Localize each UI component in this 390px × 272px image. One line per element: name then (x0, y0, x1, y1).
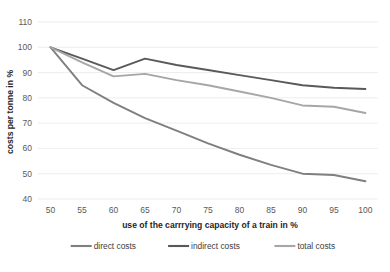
y-tick-label: 40 (23, 194, 33, 204)
series-line-total-costs (51, 47, 366, 113)
y-tick-label: 100 (18, 42, 32, 52)
x-tick-label: 50 (46, 205, 56, 215)
chart-canvas: 405060708090100110 505560657075808590951… (0, 0, 390, 272)
plot-gridlines (38, 22, 378, 199)
legend-label: direct costs (94, 241, 136, 251)
y-axis-tick-labels: 405060708090100110 (18, 17, 32, 204)
x-tick-label: 85 (266, 205, 276, 215)
x-tick-label: 70 (172, 205, 182, 215)
x-tick-label: 80 (235, 205, 245, 215)
y-tick-label: 70 (23, 118, 33, 128)
y-axis-title: costs per tonne in % (5, 70, 15, 154)
y-tick-label: 50 (23, 169, 33, 179)
x-tick-label: 95 (329, 205, 339, 215)
line-chart: 405060708090100110 505560657075808590951… (0, 0, 390, 272)
legend-label: total costs (297, 241, 335, 251)
legend-item-direct-costs[interactable]: direct costs (71, 241, 136, 251)
x-tick-label: 60 (109, 205, 119, 215)
y-tick-label: 80 (23, 93, 33, 103)
legend-label: indirect costs (191, 241, 240, 251)
y-tick-label: 90 (23, 68, 33, 78)
legend-item-indirect-costs[interactable]: indirect costs (168, 241, 240, 251)
x-tick-label: 65 (140, 205, 150, 215)
x-tick-label: 75 (203, 205, 213, 215)
x-tick-label: 100 (358, 205, 372, 215)
x-tick-label: 90 (298, 205, 308, 215)
data-series-group (51, 47, 366, 181)
legend-item-total-costs[interactable]: total costs (274, 241, 335, 251)
y-tick-label: 110 (18, 17, 32, 27)
series-line-direct-costs (51, 47, 366, 181)
y-tick-label: 60 (23, 143, 33, 153)
x-axis-title: use of the carrrying capacity of a train… (122, 220, 298, 230)
x-tick-label: 55 (77, 205, 87, 215)
chart-legend: direct costsindirect coststotal costs (71, 241, 335, 251)
series-line-indirect-costs (51, 47, 366, 89)
x-axis-tick-labels: 50556065707580859095100 (46, 205, 373, 215)
